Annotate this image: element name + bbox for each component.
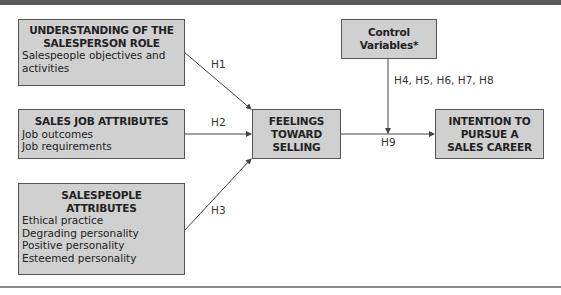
node-title: UNDERSTANDING OF THE xyxy=(19,24,184,37)
node-sales-job-attributes: SALES JOB ATTRIBUTES Job outcomes Job re… xyxy=(18,109,185,159)
bottom-rule xyxy=(0,286,561,288)
node-feelings-toward-selling: FEELINGS TOWARD SELLING xyxy=(252,109,341,159)
node-salespeople-attributes: SALESPEOPLE ATTRIBUTES Ethical practice … xyxy=(18,183,185,275)
node-item: Salespeople objectives and xyxy=(19,49,184,62)
node-title: FEELINGS xyxy=(269,115,324,128)
edge-label-h2: H2 xyxy=(211,116,226,128)
edge-label-h4-h8: H4, H5, H6, H7, H8 xyxy=(394,74,494,86)
edge-label-h1: H1 xyxy=(211,58,226,70)
node-title: SALESPEOPLE xyxy=(19,189,184,202)
edge-label-h3: H3 xyxy=(211,204,226,216)
node-title: SALES JOB ATTRIBUTES xyxy=(19,115,184,128)
node-control-variables: Control Variables* xyxy=(341,19,437,59)
node-title: Control xyxy=(368,26,410,39)
edge-label-h9: H9 xyxy=(381,136,396,148)
node-understanding-salesperson-role: UNDERSTANDING OF THE SALESPERSON ROLE Sa… xyxy=(18,19,185,86)
arrow-h3 xyxy=(184,159,251,231)
node-title: SALESPERSON ROLE xyxy=(19,37,184,50)
node-item: Positive personality xyxy=(19,239,184,252)
node-item: Job outcomes xyxy=(19,128,184,141)
node-title: SELLING xyxy=(272,141,320,154)
node-item: Degrading personality xyxy=(19,227,184,240)
node-title: INTENTION TO xyxy=(449,115,531,128)
node-title: Variables* xyxy=(360,39,418,52)
node-item: activities xyxy=(19,62,184,75)
node-item: Esteemed personality xyxy=(19,252,184,265)
node-title: PURSUE A xyxy=(461,128,519,141)
node-title: ATTRIBUTES xyxy=(19,202,184,215)
node-intention-sales-career: INTENTION TO PURSUE A SALES CAREER xyxy=(435,109,544,159)
node-item: Ethical practice xyxy=(19,214,184,227)
node-title: TOWARD xyxy=(271,128,322,141)
node-item: Job requirements xyxy=(19,140,184,153)
node-title: SALES CAREER xyxy=(447,141,532,154)
